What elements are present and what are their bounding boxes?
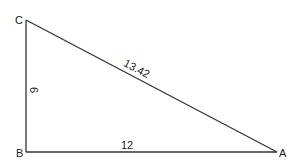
vertex-label-c: C [15,14,23,26]
triangle-diagram: C B A 6 12 13.42 [0,0,299,165]
triangle-edges [26,20,277,152]
side-label-ba: 12 [121,139,133,151]
side-label-ca: 13.42 [122,57,152,80]
vertex-label-b: B [16,147,23,159]
vertex-label-a: A [279,147,287,159]
side-label-bc: 6 [28,87,40,93]
side-ca [26,20,277,152]
